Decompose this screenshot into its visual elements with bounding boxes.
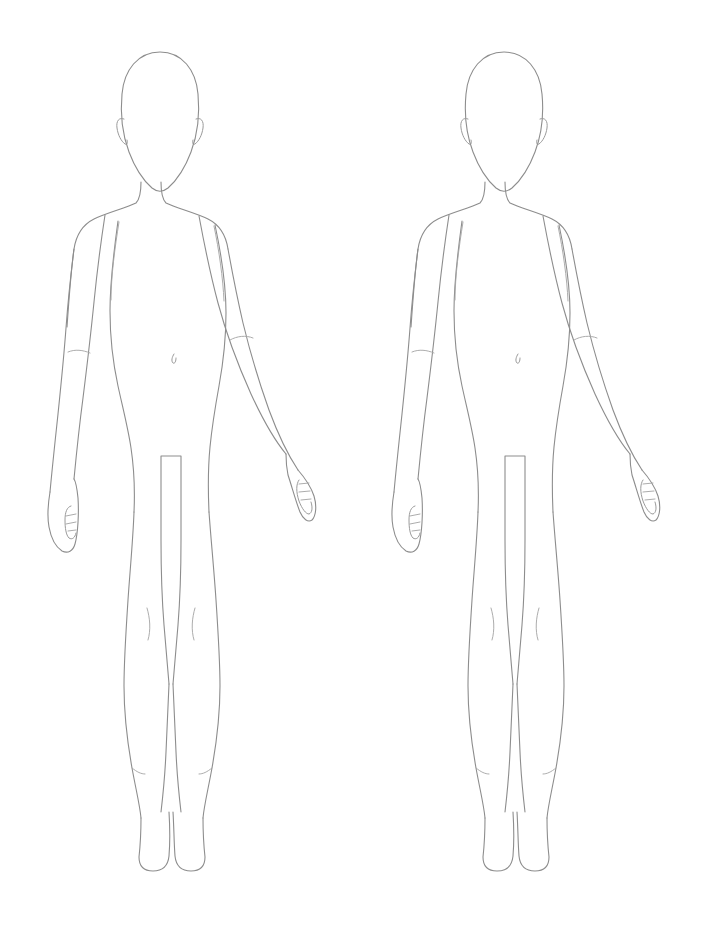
croquis-page: Fashion Croquis Template Two identical b…	[0, 0, 710, 930]
page-background	[0, 0, 710, 930]
croquis-canvas	[0, 0, 710, 930]
